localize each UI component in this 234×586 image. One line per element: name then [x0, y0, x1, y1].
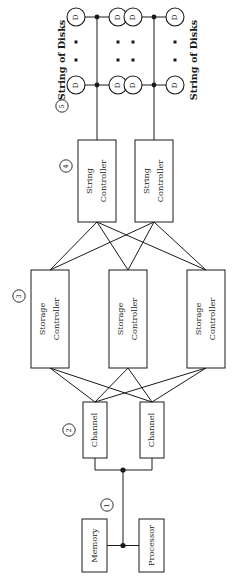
marker-storage-controller-label: 3 [15, 294, 23, 298]
marker-storage-controller: 3 [13, 290, 25, 302]
mesh-s3-t2 [154, 222, 206, 270]
mesh-c2-s2 [128, 368, 152, 402]
storage-controller-1-label-line1: Storage [37, 302, 47, 335]
disk-label: D [113, 14, 122, 20]
storage-controller-1-node: Storage Controller [31, 270, 69, 368]
channel-2-node: Channel [140, 402, 164, 458]
ellipsis-dot [174, 41, 177, 44]
marker-string-controller-label: 4 [62, 164, 70, 168]
channel-storage-mesh [50, 368, 206, 402]
mesh-s3-t1 [97, 222, 206, 270]
marker-string-of-disks-label: 5 [58, 104, 66, 108]
channel-2-label: Channel [146, 412, 156, 447]
disk-label: D [113, 82, 122, 88]
disk-string-b-bottom-left: D [124, 76, 142, 94]
storage-controller-2-label-line1: Storage [115, 302, 125, 335]
marker-channel: 2 [63, 424, 75, 436]
disk-string-b-bottom-right: D [166, 76, 184, 94]
disk-string-a-top-left: D [67, 8, 85, 26]
processor-node: Processor [139, 519, 164, 572]
mesh-c1-s1 [50, 368, 95, 402]
string-controller-2-label-line2: Controller [155, 160, 165, 203]
marker-channel-label: 2 [65, 428, 73, 432]
mesh-c2-s3 [152, 368, 206, 402]
disk-label: D [71, 14, 80, 20]
marker-string-controller: 4 [60, 160, 72, 172]
disk-string-b-top-right: D [166, 8, 184, 26]
ellipsis-dot [117, 41, 120, 44]
string-of-disks-label-bottom: String of Disks [188, 20, 199, 100]
string-controller-2-node: String Controller [135, 140, 173, 222]
channel-1-label: Channel [89, 412, 99, 447]
memory-node: Memory [82, 519, 107, 572]
disk-label: D [71, 82, 80, 88]
marker-bus: 1 [101, 499, 113, 511]
storage-controller-2-node: Storage Controller [109, 270, 147, 368]
string-controller-2-label-line1: String [141, 168, 151, 194]
storage-controller-3-node: Storage Controller [187, 270, 225, 368]
memory-label: Memory [89, 528, 99, 563]
mesh-s2-t2 [128, 222, 154, 270]
storage-controller-1-label-line2: Controller [51, 298, 61, 341]
string-controller-1-label-line1: String [84, 168, 94, 194]
storage-controller-3-label-line2: Controller [207, 298, 217, 341]
storage-controller-2-label-line2: Controller [129, 298, 139, 341]
ellipsis-dot [174, 59, 177, 62]
string-controller-1-node: String Controller [78, 140, 116, 222]
storage-hierarchy-diagram: Memory Processor 1 Channel Channel 2 [0, 0, 234, 586]
ellipsis-dot [117, 59, 120, 62]
mesh-c2-s1 [50, 368, 152, 402]
disk-string-b-top-left: D [124, 8, 142, 26]
bus-junction-lower [120, 543, 125, 548]
storage-string-mesh [50, 222, 206, 270]
string-controller-1-label-line2: Controller [98, 160, 108, 203]
disk-label: D [128, 82, 137, 88]
disk-label: D [170, 14, 179, 20]
disk-label: D [170, 82, 179, 88]
ellipsis-dot [75, 41, 78, 44]
ellipsis-dot [75, 59, 78, 62]
ellipsis-dot [132, 41, 135, 44]
disk-string-a-bottom-left: D [67, 76, 85, 94]
ellipsis-dot [132, 59, 135, 62]
mesh-s1-t1 [50, 222, 97, 270]
marker-string-of-disks: 5 [56, 100, 68, 112]
string-of-disks-label-top: String of Disks [56, 20, 67, 100]
disk-label: D [128, 14, 137, 20]
processor-label: Processor [146, 525, 156, 566]
marker-bus-label: 1 [103, 503, 111, 507]
storage-controller-3-label-line1: Storage [193, 302, 203, 335]
channel-1-node: Channel [83, 402, 107, 458]
